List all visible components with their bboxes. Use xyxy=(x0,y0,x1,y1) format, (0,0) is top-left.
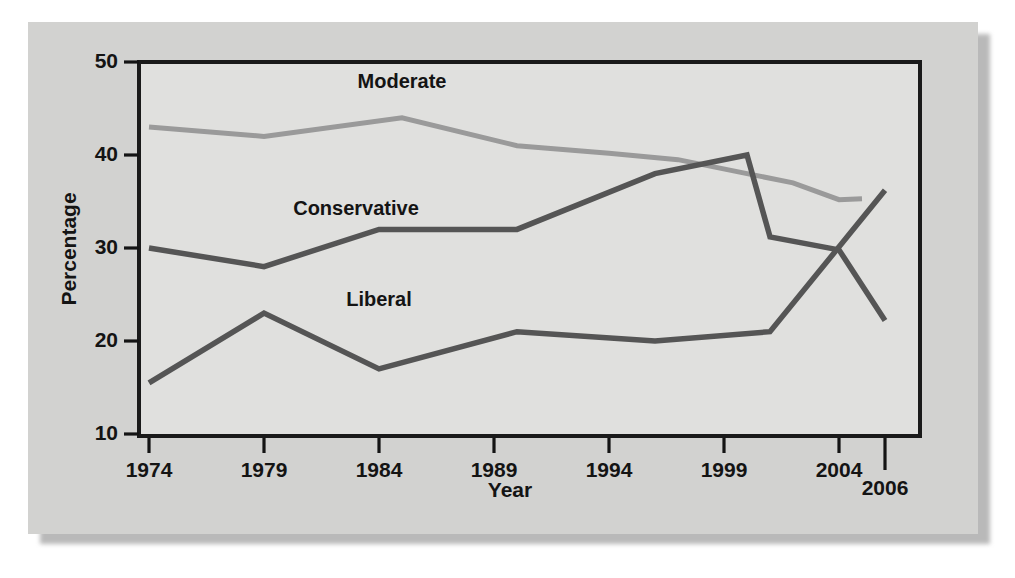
x-tick-label-2006: 2006 xyxy=(862,476,909,499)
series-line-liberal xyxy=(149,190,885,383)
series-inline-labels: ModerateConservativeLiberal xyxy=(293,70,446,310)
x-tick-label-1974: 1974 xyxy=(126,458,173,481)
series-label-liberal: Liberal xyxy=(346,288,412,310)
line-chart-svg: 1020304050 19741979198419891994199920042… xyxy=(0,0,1015,578)
chart-figure: 1020304050 19741979198419891994199920042… xyxy=(0,0,1015,578)
y-tick-label-50: 50 xyxy=(95,49,118,72)
series-label-moderate: Moderate xyxy=(358,70,447,92)
x-tick-label-1994: 1994 xyxy=(586,458,633,481)
x-tick-label-1979: 1979 xyxy=(241,458,288,481)
y-tick-label-30: 30 xyxy=(95,235,118,258)
x-tick-label-1999: 1999 xyxy=(701,458,748,481)
x-axis-title: Year xyxy=(488,478,532,501)
y-axis-tick-labels: 1020304050 xyxy=(95,49,118,444)
y-axis-title: Percentage xyxy=(57,192,80,305)
y-tick-label-40: 40 xyxy=(95,142,118,165)
y-tick-label-20: 20 xyxy=(95,328,118,351)
x-tick-label-1984: 1984 xyxy=(356,458,403,481)
data-series-group xyxy=(149,118,885,383)
x-tick-label-2004: 2004 xyxy=(816,458,863,481)
series-label-conservative: Conservative xyxy=(293,197,419,219)
y-axis-ticks xyxy=(124,62,139,434)
y-tick-label-10: 10 xyxy=(95,421,118,444)
